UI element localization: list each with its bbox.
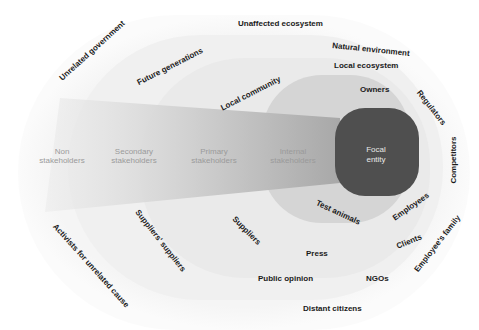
stakeholder-diagram: Non stakeholders Secondary stakeholders …	[0, 0, 479, 330]
zone-label-line: Internal	[270, 147, 315, 156]
zone-secondary-stakeholders: Secondary stakeholders	[111, 147, 156, 165]
label-press: Press	[306, 250, 328, 258]
zone-label-line: Secondary	[111, 147, 156, 156]
zone-non-stakeholders: Non stakeholders	[39, 147, 84, 165]
label-unaffected-ecosystem: Unaffected ecosystem	[238, 20, 323, 28]
label-local-ecosystem: Local ecosystem	[334, 62, 398, 70]
zone-label-line: stakeholders	[39, 156, 84, 165]
focal-entity-label: Focal entity	[366, 145, 386, 164]
zone-label-line: stakeholders	[270, 156, 315, 165]
label-ngos: NGOs	[366, 275, 389, 283]
zone-label-line: Primary	[191, 147, 236, 156]
label-owners: Owners	[360, 86, 389, 94]
focal-label-line: Focal	[366, 145, 386, 155]
label-public-opinion: Public opinion	[258, 275, 313, 283]
zone-primary-stakeholders: Primary stakeholders	[191, 147, 236, 165]
zone-label-line: stakeholders	[111, 156, 156, 165]
label-distant-citizens: Distant citizens	[303, 305, 362, 313]
zone-internal-stakeholders: Internal stakeholders	[270, 147, 315, 165]
zone-label-line: stakeholders	[191, 156, 236, 165]
zone-label-line: Non	[39, 147, 84, 156]
focal-label-line: entity	[366, 155, 386, 165]
label-competitors: Competitors	[450, 136, 458, 183]
